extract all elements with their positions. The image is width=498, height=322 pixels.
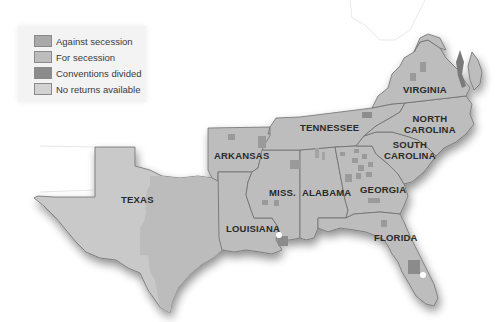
delmarva-peninsula [468, 52, 482, 90]
label-south: SOUTH [384, 139, 436, 150]
legend-label: For secession [56, 52, 115, 63]
legend-swatch-no-returns [34, 83, 52, 95]
legend-item-against: Against secession [34, 34, 133, 48]
state-florida [318, 212, 438, 306]
label-tennessee: TENNESSEE [300, 122, 359, 133]
label-miss: MISS. [269, 187, 296, 198]
legend-label: Against secession [56, 36, 133, 47]
label-louisiana: LOUISIANA [226, 223, 280, 234]
label-north-carolina: NORTH CAROLINA [404, 113, 456, 135]
legend-swatch-divided [34, 67, 52, 79]
label-arkansas: ARKANSAS [214, 150, 269, 161]
label-carolina: CAROLINA [384, 150, 436, 161]
legend-item-no-returns: No returns available [34, 82, 141, 96]
legend-item-for: For secession [34, 50, 115, 64]
northern-states-outline [350, 0, 425, 40]
legend-swatch-for [34, 51, 52, 63]
legend-item-divided: Conventions divided [34, 66, 142, 80]
label-florida: FLORIDA [374, 232, 418, 243]
legend-label: No returns available [56, 84, 141, 95]
west-outline [40, 146, 95, 192]
label-virginia: VIRGINIA [403, 84, 447, 95]
label-north: NORTH [404, 113, 456, 124]
legend-label: Conventions divided [56, 68, 142, 79]
label-south-carolina: SOUTH CAROLINA [384, 139, 436, 161]
label-alabama: ALABAMA [302, 187, 351, 198]
legend-swatch-against [34, 35, 52, 47]
label-texas: TEXAS [121, 194, 154, 205]
label-georgia: GEORGIA [360, 184, 406, 195]
label-carolina: CAROLINA [404, 124, 456, 135]
lake-okeechobee [420, 272, 426, 278]
legend: Against secession For secession Conventi… [18, 26, 146, 102]
